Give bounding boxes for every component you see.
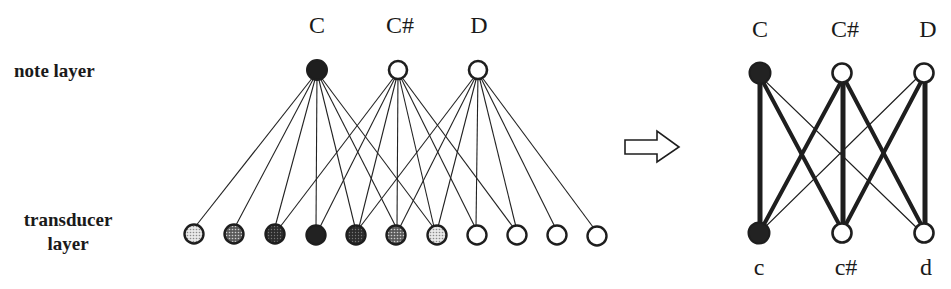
transducer-node [307, 226, 326, 245]
right-edges [760, 78, 925, 230]
transducer-node [548, 226, 567, 245]
right-bottom-node-c-sharp [833, 224, 852, 243]
network-diagram [0, 0, 951, 289]
right-top-node-c-sharp [833, 64, 852, 83]
transducer-node [347, 226, 366, 245]
transducer-node [225, 225, 244, 244]
transducer-node [266, 225, 285, 244]
note-node-c [307, 60, 327, 80]
transducer-nodes [185, 225, 607, 246]
transducer-node [468, 226, 487, 245]
right-top-node-c [750, 63, 771, 84]
right-bottom-node-c [749, 223, 770, 244]
left-connections [195, 72, 593, 227]
transducer-node [185, 225, 204, 244]
right-arrow-icon [625, 131, 679, 162]
transducer-node [508, 226, 527, 245]
right-bottom-node-d [915, 224, 934, 243]
transducer-node [387, 226, 406, 245]
note-node-d [469, 61, 487, 79]
transducer-node [428, 226, 447, 245]
right-top-node-d [915, 64, 934, 83]
transducer-node [588, 227, 607, 246]
note-node-c-sharp [389, 61, 407, 79]
